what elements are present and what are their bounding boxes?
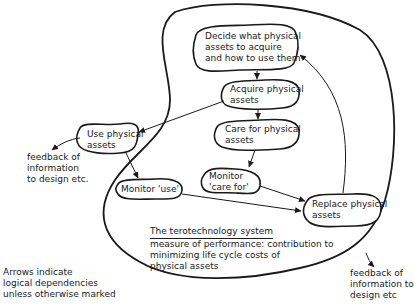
feedback-right: feedback of information to design etc: [350, 268, 414, 301]
node-replace-line: Replace physical: [312, 199, 387, 210]
feedback-left: feedback of information to design etc.: [27, 152, 89, 185]
system-measure-line: physical assets: [150, 261, 334, 272]
feedback-right-line: design etc: [350, 290, 414, 301]
system-measure-line: minimizing life cycle costs of: [150, 250, 334, 261]
node-care-line: Care for physical: [225, 124, 301, 135]
legend-line: Arrows indicate: [3, 267, 116, 278]
node-use-line: assets: [87, 140, 144, 151]
legend-note: Arrows indicate logical dependencies unl…: [3, 267, 116, 300]
edge-monitor-use-replace: [182, 194, 301, 211]
edge-acquire-use: [139, 101, 224, 132]
legend-line: unless otherwise marked: [3, 289, 116, 300]
feedback-right-line: feedback of: [350, 268, 414, 279]
node-acquire: Acquire physical assets: [230, 84, 304, 106]
node-decide-line: and how to use them: [205, 53, 301, 64]
node-acquire-line: Acquire physical: [230, 84, 304, 95]
edge-care-monitor-care: [249, 150, 255, 167]
node-replace-line: assets: [312, 210, 387, 221]
system-title: The terotechnology system: [150, 226, 273, 239]
node-monitor-use-line: Monitor 'use': [121, 184, 179, 195]
node-monitor-care-line: 'care for': [209, 182, 249, 193]
node-use: Use physical assets: [87, 129, 144, 151]
node-decide-line: assets to acquire: [205, 42, 301, 53]
node-care: Care for physical assets: [225, 124, 301, 146]
node-monitor-use: Monitor 'use': [121, 184, 179, 195]
feedback-right-line: information to: [350, 279, 414, 290]
node-replace: Replace physical assets: [312, 199, 387, 221]
edge-use-feedback-left: [52, 138, 80, 150]
node-monitor-care: Monitor 'care for': [209, 171, 249, 193]
edge-monitor-care-replace: [260, 186, 305, 201]
edge-boundary-feedback-right: [366, 253, 374, 267]
feedback-left-line: to design etc.: [27, 174, 89, 185]
feedback-left-line: information: [27, 163, 89, 174]
node-care-line: assets: [225, 135, 301, 146]
node-acquire-line: assets: [230, 95, 304, 106]
node-decide: Decide what physical assets to acquire a…: [205, 31, 301, 64]
feedback-left-line: feedback of: [27, 152, 89, 163]
edge-replace-decide: [300, 55, 346, 193]
system-caption: The terotechnology system measure of per…: [150, 226, 334, 272]
node-use-line: Use physical: [87, 129, 144, 140]
node-monitor-care-line: Monitor: [209, 171, 249, 182]
node-decide-line: Decide what physical: [205, 31, 301, 42]
legend-line: logical dependencies: [3, 278, 116, 289]
system-measure-line: measure of performance: contribution to: [150, 239, 334, 250]
